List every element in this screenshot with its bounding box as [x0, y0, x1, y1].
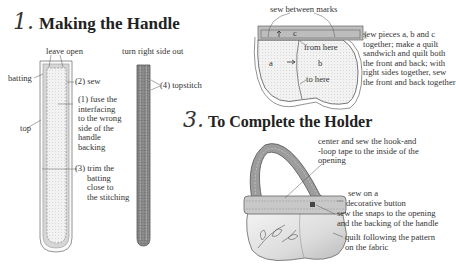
label-piece-b: b [318, 59, 322, 69]
label-fuse-interfacing: (1) fuse the interfacing to the wrong si… [78, 95, 121, 153]
label-topstitch: (4) topstitch [160, 81, 202, 91]
label-to-here: to here [306, 75, 330, 85]
section-1-heading: 1. Making the Handle [13, 9, 180, 34]
label-sew-between-marks: sew between marks [270, 5, 337, 15]
label-decorative-button: sew on a decorative button [346, 189, 406, 208]
label-leave-open: leave open [46, 47, 83, 57]
section-3-title: To Complete the Holder [208, 113, 372, 130]
section-2-instructions: sew pieces a, b and c together; make a q… [363, 30, 456, 88]
label-piece-a: a [269, 59, 273, 69]
label-sew-snaps: sew the snaps to the opening and the bac… [337, 209, 438, 228]
label-piece-c: c [293, 29, 297, 39]
section-3-heading: 3. To Complete the Holder [183, 107, 372, 132]
handle-diagram-inside-out [40, 61, 72, 252]
label-hook-loop-tape: center and sew the hook-and -loop tape t… [318, 137, 419, 166]
label-sew: (2) sew [75, 77, 101, 87]
section-1-title: Making the Handle [39, 14, 180, 33]
label-batting: batting [8, 74, 32, 84]
label-top: top [20, 124, 31, 134]
handle-diagram-topstitched [137, 65, 150, 246]
section-3-number: 3. [183, 107, 204, 132]
label-quilt-pattern: quilt following the pattern on the fabri… [345, 233, 435, 252]
section-1-number: 1. [13, 9, 34, 34]
label-from-here: from here [304, 43, 338, 53]
label-turn-right-side-out: turn right side out [122, 47, 183, 57]
label-trim-batting: (3) trim the batting close to the stitch… [75, 164, 129, 202]
